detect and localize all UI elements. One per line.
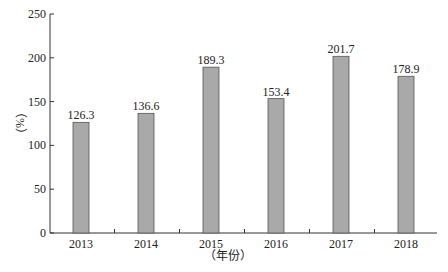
bar-value-label: 201.7 — [328, 42, 355, 56]
bar-value-label: 178.9 — [393, 62, 420, 76]
bars: 126.3136.6189.3153.4201.7178.9 — [68, 42, 420, 233]
bar-2014 — [138, 113, 154, 233]
y-tick-label: 50 — [34, 182, 46, 196]
x-tick-label: 2018 — [394, 237, 418, 251]
bar-2013 — [73, 122, 89, 233]
x-tick-label: 2017 — [329, 237, 353, 251]
bar-2017 — [333, 56, 349, 233]
x-tick-label: 2014 — [134, 237, 158, 251]
y-tick-label: 0 — [40, 226, 46, 240]
x-axis-title: （年份） — [204, 249, 252, 263]
bar-value-label: 136.6 — [133, 99, 160, 113]
bar-2015 — [203, 67, 219, 233]
bar-value-label: 153.4 — [263, 85, 290, 99]
bar-value-label: 126.3 — [68, 108, 95, 122]
y-tick-label: 100 — [28, 138, 46, 152]
y-tick-label: 250 — [28, 7, 46, 21]
bar-2016 — [268, 99, 284, 233]
x-tick-label: 2016 — [264, 237, 288, 251]
y-tick-label: 150 — [28, 95, 46, 109]
bar-2018 — [398, 76, 414, 233]
y-axis-title: （%） — [13, 106, 27, 140]
bar-chart: 050100150200250 201320142015201620172018… — [0, 0, 448, 272]
y-axis: 050100150200250 — [28, 7, 54, 240]
x-axis: 201320142015201620172018 — [50, 229, 437, 251]
bar-value-label: 189.3 — [198, 53, 225, 67]
x-tick-label: 2013 — [69, 237, 93, 251]
y-tick-label: 200 — [28, 51, 46, 65]
